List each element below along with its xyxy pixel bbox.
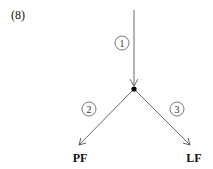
edge-2-badge: 2 [82, 102, 96, 116]
edge-3-badge: 3 [170, 102, 184, 116]
edge-1-badge: 1 [115, 36, 129, 50]
edge-3-arrow [136, 91, 190, 145]
svg-text:1: 1 [120, 38, 125, 49]
edge-2-arrow [79, 91, 132, 145]
node-pf: PF [73, 151, 88, 165]
node-lf: LF [186, 151, 201, 165]
svg-text:3: 3 [175, 104, 180, 115]
junction-dot [131, 86, 136, 91]
svg-text:2: 2 [87, 104, 92, 115]
tree-diagram: 1 2 3 PF LF [0, 0, 213, 169]
